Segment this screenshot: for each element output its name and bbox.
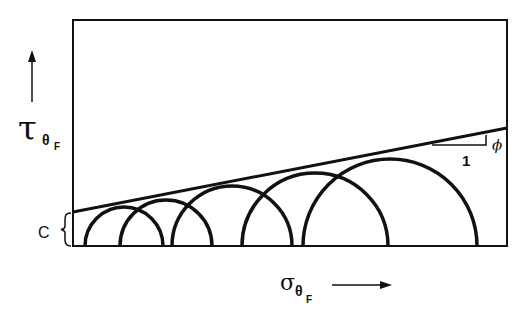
- slope-run-label: 1: [462, 152, 470, 169]
- mohr-circle-5: [303, 159, 477, 246]
- slope-angle-label: ϕ: [492, 136, 502, 154]
- plot-frame: [73, 20, 507, 246]
- y-axis-arrow-icon: [28, 50, 36, 62]
- y-axis-label-subscript: θ: [42, 132, 50, 148]
- x-axis-arrow-icon: [380, 281, 392, 289]
- mohr-circle-4: [242, 173, 388, 246]
- x-axis-label-symbol: σ: [280, 270, 295, 295]
- cohesion-brace: [61, 213, 71, 246]
- y-axis-label-sub-subscript: F: [54, 141, 60, 152]
- x-axis-label-sub-subscript: F: [306, 294, 312, 305]
- x-axis-label-subscript: θ: [295, 283, 303, 299]
- y-axis-label-symbol: τ: [18, 108, 37, 148]
- mohr-coulomb-diagram: 1 ϕ τ θ F C σ θ F: [0, 0, 530, 317]
- failure-envelope-line: [73, 128, 507, 212]
- mohr-circle-3: [172, 186, 292, 246]
- cohesion-label: C: [38, 224, 50, 241]
